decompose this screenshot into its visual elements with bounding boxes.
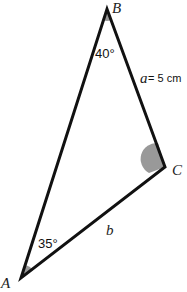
triangle-diagram: B C A 40° 35° a = 5 cm b (0, 0, 187, 292)
vertex-label-c: C (172, 162, 183, 178)
angle-label-a: 35° (38, 236, 58, 251)
side-label-a-var: a (140, 70, 148, 86)
vertex-label-b: B (112, 0, 121, 16)
angle-label-b: 40° (95, 46, 115, 61)
side-label-a-value: = 5 cm (148, 72, 181, 84)
side-label-b: b (106, 222, 114, 238)
vertex-label-a: A (0, 275, 11, 291)
